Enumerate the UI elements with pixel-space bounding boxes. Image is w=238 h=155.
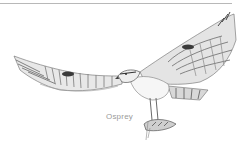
- osprey-illustration: [0, 0, 238, 155]
- figure-caption: Osprey: [106, 112, 133, 121]
- legs-and-fish: [144, 98, 176, 140]
- right-wing: [140, 12, 236, 84]
- left-wing: [14, 56, 122, 91]
- tail: [168, 86, 208, 100]
